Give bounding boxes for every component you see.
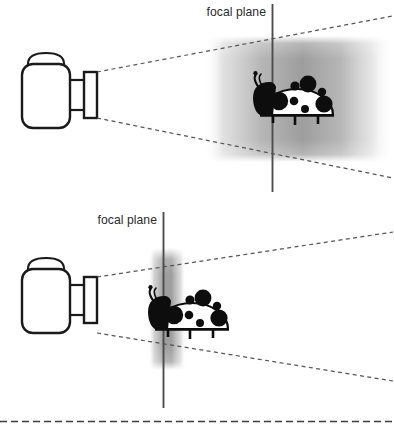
camera-top: [22, 53, 97, 128]
field-of-view-rays-bottom: [97, 232, 393, 381]
focal-plane-label-bottom: focal plane: [98, 213, 158, 227]
camera-bottom: [22, 258, 97, 333]
shallow-depth-of-field-panel: focal plane: [22, 4, 394, 192]
focal-plane-label-top: focal plane: [207, 5, 267, 19]
depth-of-field-diagram: focal plane f: [0, 0, 394, 436]
deep-depth-of-field-panel: focal plane: [22, 212, 393, 408]
figure-root: focal plane f: [0, 0, 394, 436]
